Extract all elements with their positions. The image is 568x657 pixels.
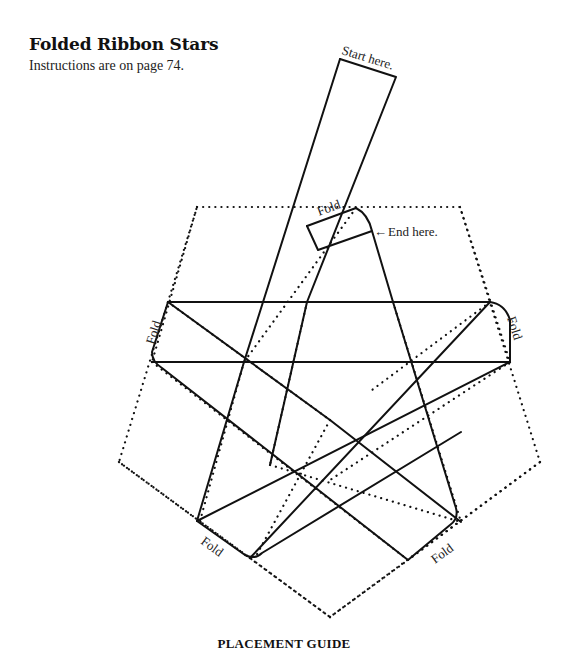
ribbon-edge — [307, 208, 393, 302]
ribbon-edge — [168, 302, 510, 362]
dotted-fold-guide — [460, 207, 510, 362]
ribbon-star-diagram: Start here. Fold ← End here. Fold Fold F… — [0, 0, 568, 657]
fold-label-bottom-right: Fold — [428, 540, 457, 566]
ribbon-edge — [307, 226, 372, 250]
fold-label-right: Fold — [504, 314, 526, 342]
fold-label-left: Fold — [143, 318, 165, 346]
dotted-fold-guide — [244, 208, 356, 362]
placement-guide-caption: PLACEMENT GUIDE — [0, 636, 568, 652]
end-arrow-icon: ← — [374, 224, 387, 239]
ribbon-edge — [270, 302, 307, 465]
end-here-label: End here. — [388, 224, 438, 239]
dotted-fold-guide — [372, 302, 490, 390]
ribbon-solid-lines — [152, 59, 510, 560]
dotted-guide-lines — [119, 207, 540, 617]
dotted-fold-guide — [330, 560, 408, 617]
dotted-fold-guide — [255, 420, 330, 558]
fold-label-top: Fold — [315, 196, 343, 218]
ribbon-edge — [393, 302, 457, 560]
dotted-fold-guide — [330, 362, 510, 480]
ribbon-edge — [330, 420, 461, 522]
dotted-pentagon-outline — [119, 207, 540, 617]
